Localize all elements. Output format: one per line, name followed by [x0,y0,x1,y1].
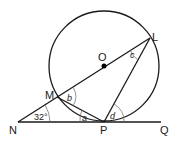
label-m: M [45,89,54,101]
label-l: L [152,31,158,43]
angle-label-c: c [130,50,135,60]
label-n: N [9,124,17,136]
label-q: Q [160,124,169,136]
angle-arc-b [73,87,76,106]
chord-mp [57,97,104,122]
angle-label-a: a [82,113,87,123]
label-o: O [98,51,107,63]
angle-label-b: b [67,93,72,103]
label-p: P [100,124,107,136]
center-point-o [102,64,107,69]
geometry-diagram: O L M N P Q 32° a b c d [0,0,179,146]
chord-pl [104,38,150,122]
angle-label-given: 32° [34,112,48,122]
